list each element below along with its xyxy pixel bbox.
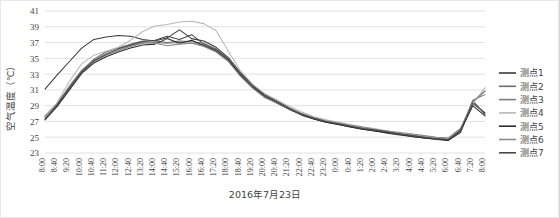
x-axis-tick-label: 9:20 — [62, 158, 71, 172]
y-axis-tick-label: 27 — [30, 117, 40, 127]
x-axis-tick-label: 15:20 — [172, 158, 181, 176]
x-axis-tick-label: 0:00 — [331, 158, 340, 172]
legend-label-测点5: 测点5 — [520, 122, 544, 132]
legend-label-测点2: 测点2 — [520, 82, 544, 92]
x-axis-tick-label: 12:40 — [124, 158, 133, 176]
x-axis-tick-label: 18:00 — [221, 158, 230, 176]
x-axis-tick-label: 16:00 — [185, 158, 194, 176]
series-line-测点3 — [45, 43, 485, 139]
x-axis-tick-label: 4:00 — [405, 158, 414, 172]
x-axis-tick-label: 14:00 — [148, 158, 157, 176]
x-axis-title: 2016年7月23日 — [229, 189, 301, 200]
legend-label-测点6: 测点6 — [520, 135, 544, 145]
x-axis-tick-label: 23:20 — [319, 158, 328, 176]
x-axis-tick-label: 10:00 — [75, 158, 84, 176]
x-axis-tick-label: 1:20 — [356, 158, 365, 172]
x-axis-tick-label: 2:00 — [368, 158, 377, 172]
x-axis-tick-label: 17:20 — [209, 158, 218, 176]
x-axis-tick-label: 0:40 — [344, 158, 353, 172]
chart-legend: 测点1测点2测点3测点4测点5测点6测点7 — [499, 68, 544, 158]
y-axis-tick-label: 29 — [30, 101, 40, 111]
x-axis-tick-label: 4:40 — [417, 158, 426, 172]
x-axis-tick-label: 5:20 — [429, 158, 438, 172]
series-line-测点1 — [45, 30, 485, 140]
x-axis-tick-label: 8:00 — [478, 158, 487, 172]
x-axis-tick-label: 20:40 — [270, 158, 279, 176]
x-axis-tick-label: 21:20 — [282, 158, 291, 176]
y-axis-tick-label: 31 — [30, 85, 39, 95]
x-axis-tick-label: 8:00 — [38, 158, 47, 172]
y-axis-tick-label: 33 — [30, 70, 40, 80]
y-axis-tick-label: 35 — [30, 54, 40, 64]
y-axis-tick-label: 23 — [30, 148, 40, 158]
x-axis-tick-label: 22:40 — [307, 158, 316, 176]
legend-label-测点4: 测点4 — [520, 108, 544, 118]
legend-label-测点3: 测点3 — [520, 95, 544, 105]
y-axis-title: 空气温度（℃） — [5, 61, 16, 132]
x-axis-tick-label: 12:00 — [111, 158, 120, 176]
x-axis-tick-label: 18:40 — [234, 158, 243, 176]
x-axis-tick-label: 14:40 — [160, 158, 169, 176]
x-axis-tick-label: 13:20 — [136, 158, 145, 176]
legend-label-测点7: 测点7 — [520, 148, 544, 158]
x-axis-tick-label: 6:00 — [441, 158, 450, 172]
x-axis-tick-label: 8:40 — [50, 158, 59, 172]
x-axis-tick-label: 11:20 — [99, 158, 108, 176]
y-axis-tick-labels: 23252729313335373941 — [30, 6, 40, 158]
x-axis-tick-label: 16:40 — [197, 158, 206, 176]
legend-label-测点1: 测点1 — [520, 68, 544, 78]
line-chart: 23252729313335373941 8:008:409:2010:0010… — [1, 1, 559, 218]
x-axis-tick-label: 19:20 — [246, 158, 255, 176]
y-axis-tick-label: 41 — [30, 6, 39, 16]
data-series-lines — [45, 21, 485, 140]
y-axis-tick-label: 37 — [30, 38, 40, 48]
x-axis-tick-label: 20:00 — [258, 158, 267, 176]
gridlines — [45, 11, 485, 153]
x-axis-tick-label: 7:20 — [466, 158, 475, 172]
x-axis-tick-label: 6:40 — [454, 158, 463, 172]
chart-container: 23252729313335373941 8:008:409:2010:0010… — [0, 0, 559, 218]
x-axis-tick-label: 3:20 — [392, 158, 401, 172]
series-line-测点4 — [45, 21, 485, 138]
y-axis-tick-label: 39 — [30, 22, 40, 32]
x-axis-tick-label: 22:00 — [295, 158, 304, 176]
x-axis-tick-labels: 8:008:409:2010:0010:4011:2012:0012:4013:… — [38, 158, 487, 176]
y-axis-tick-label: 25 — [30, 133, 40, 143]
x-axis-tick-label: 2:40 — [380, 158, 389, 172]
x-axis-tick-label: 10:40 — [87, 158, 96, 176]
